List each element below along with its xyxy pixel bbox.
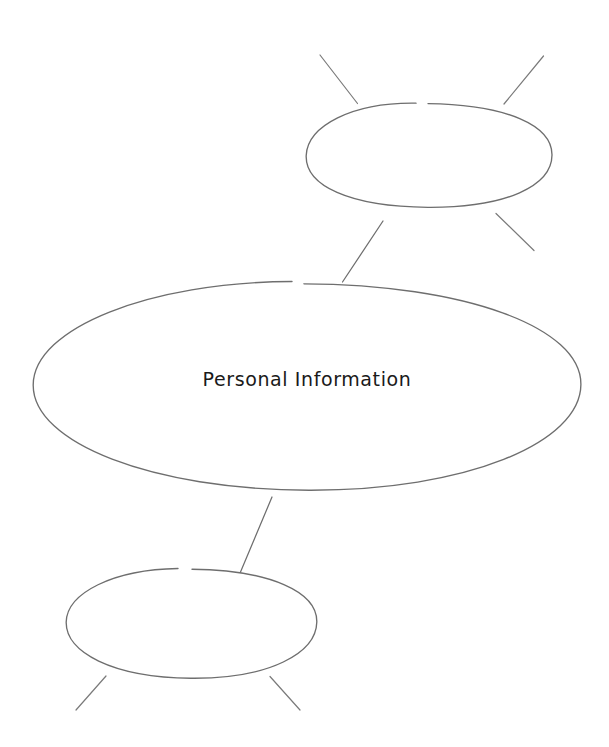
concept-map-canvas: Personal Information (0, 0, 609, 747)
spoke-down-left-icon (76, 676, 106, 710)
spoke-down-right-lower-icon (270, 677, 300, 711)
bubble-branch-top-right[interactable] (306, 103, 552, 207)
spoke-down-right-icon (496, 214, 534, 251)
bubble-branch-bottom-left[interactable] (66, 569, 317, 679)
bubble-central-topic[interactable]: Personal Information (33, 282, 581, 491)
bubble-bottom-left-outline (66, 569, 317, 679)
spoke-up-left-icon (320, 55, 358, 104)
page-title: Personal Information (203, 368, 412, 390)
spoke-up-right-icon (504, 56, 544, 104)
bubble-top-right-outline (306, 103, 552, 207)
connector-center-to-top-right[interactable] (343, 221, 384, 282)
concept-map-svg: Personal Information (0, 0, 609, 747)
spokes-bottom-left-branch (76, 676, 300, 710)
connector-center-to-bottom-left[interactable] (241, 497, 273, 572)
